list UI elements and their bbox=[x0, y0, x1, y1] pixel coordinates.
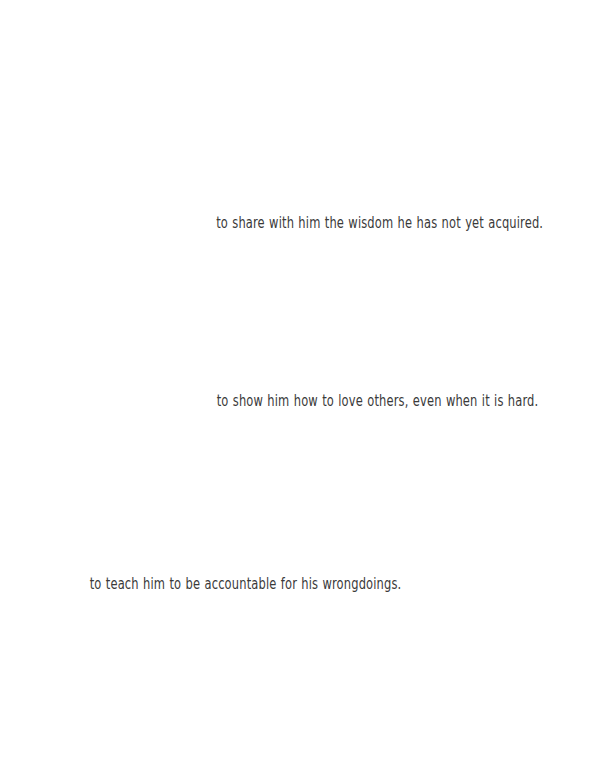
scanned-page: to share with him the wisdom he has not … bbox=[0, 0, 590, 763]
verse-line: to teach him to be accountable for his w… bbox=[90, 577, 402, 592]
verse-line: to show him how to love others, even whe… bbox=[217, 394, 539, 409]
verse-line: to share with him the wisdom he has not … bbox=[216, 216, 543, 231]
